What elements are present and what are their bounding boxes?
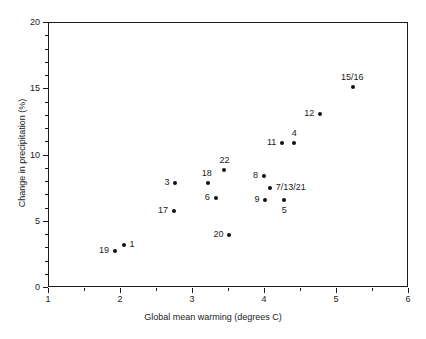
data-point-marker (280, 141, 284, 145)
y-axis-minor-tick (45, 75, 48, 76)
x-axis-minor-tick (228, 288, 229, 291)
y-axis-tick-label: 20 (18, 17, 40, 27)
y-axis-tick (43, 155, 48, 156)
data-point-label: 8 (253, 171, 258, 180)
data-point-marker (351, 85, 355, 89)
data-point-label: 15/16 (341, 73, 364, 82)
x-axis-minor-tick (156, 288, 157, 291)
x-axis-tick (264, 288, 265, 293)
data-point-label: 6 (205, 193, 210, 202)
data-point-label: 4 (292, 129, 297, 138)
y-axis-minor-tick (45, 181, 48, 182)
data-point-marker (214, 196, 218, 200)
data-point-marker (206, 181, 210, 185)
data-point-label: 1 (130, 240, 135, 249)
x-axis-tick-label: 1 (36, 294, 60, 304)
x-axis-minor-tick (300, 288, 301, 291)
data-point-label: 17 (158, 206, 168, 215)
y-axis-tick (43, 221, 48, 222)
data-point-label: 5 (282, 206, 287, 215)
data-point-label: 22 (219, 156, 229, 165)
y-axis-minor-tick (45, 62, 48, 63)
x-axis-tick-label: 3 (180, 294, 204, 304)
y-axis-minor-tick (45, 194, 48, 195)
y-axis-title: Change in precipitation (%) (17, 78, 27, 228)
x-axis-tick-label: 2 (108, 294, 132, 304)
data-point-marker (122, 243, 126, 247)
data-point-label: 20 (213, 230, 223, 239)
y-axis-minor-tick (45, 234, 48, 235)
y-axis-tick-label: 0 (18, 282, 40, 292)
x-axis-tick-label: 5 (324, 294, 348, 304)
y-axis-minor-tick (45, 274, 48, 275)
data-point-marker (172, 209, 176, 213)
scatter-plot-figure: 12345605101520 191317186222087/13/219511… (0, 0, 426, 339)
x-axis-tick (336, 288, 337, 293)
data-point-label: 7/13/21 (276, 183, 306, 192)
x-axis-minor-tick (372, 288, 373, 291)
y-axis-minor-tick (45, 141, 48, 142)
y-axis-minor-tick (45, 261, 48, 262)
y-axis-minor-tick (45, 208, 48, 209)
data-point-label: 12 (304, 109, 314, 118)
data-point-label: 19 (99, 246, 109, 255)
y-axis-minor-tick (45, 168, 48, 169)
x-axis-minor-tick (84, 288, 85, 291)
data-point-label: 18 (202, 169, 212, 178)
y-axis-tick (43, 287, 48, 288)
x-axis-tick-label: 6 (396, 294, 420, 304)
y-axis-minor-tick (45, 247, 48, 248)
x-axis-tick (408, 288, 409, 293)
x-axis-tick (120, 288, 121, 293)
y-axis-tick (43, 88, 48, 89)
data-point-marker (282, 198, 286, 202)
x-axis-tick (192, 288, 193, 293)
data-point-marker (292, 141, 296, 145)
y-axis-minor-tick (45, 35, 48, 36)
x-axis-title: Global mean warming (degrees C) (0, 312, 426, 322)
data-point-label: 11 (267, 138, 276, 147)
x-axis-tick-label: 4 (252, 294, 276, 304)
y-axis-tick (43, 22, 48, 23)
y-axis-minor-tick (45, 49, 48, 50)
x-axis-tick (48, 288, 49, 293)
y-axis-minor-tick (45, 128, 48, 129)
y-axis-minor-tick (45, 115, 48, 116)
data-point-label: 9 (254, 195, 259, 204)
data-point-label: 3 (164, 178, 169, 187)
y-axis-minor-tick (45, 102, 48, 103)
